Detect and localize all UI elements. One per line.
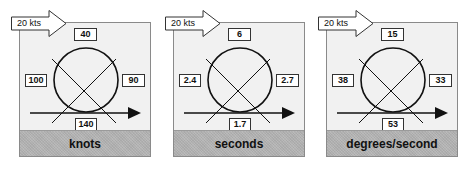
- value-left: 100: [25, 74, 47, 87]
- circle: [208, 48, 272, 112]
- value-right: 90: [122, 74, 145, 87]
- value-right: 33: [429, 74, 452, 87]
- value-top: 40: [74, 28, 97, 41]
- circle: [361, 48, 425, 112]
- unit-label: degrees/second: [327, 130, 457, 156]
- arrowhead-icon: [435, 107, 448, 119]
- wind-speed-label: 20 kts: [17, 18, 41, 29]
- unit-label: seconds: [174, 130, 304, 156]
- arrowhead-icon: [282, 107, 295, 119]
- value-left: 38: [332, 74, 354, 87]
- wind-speed-label: 20 kts: [324, 18, 348, 29]
- wind-arrow: 20 kts: [165, 10, 221, 37]
- value-left: 2.4: [179, 74, 201, 87]
- wind-speed-label: 20 kts: [171, 18, 195, 29]
- panel-degrees-per-second: 15 38 33 53 degrees/second: [326, 22, 458, 157]
- value-top: 6: [228, 28, 251, 41]
- arrowhead-icon: [128, 107, 141, 119]
- wind-arrow: 20 kts: [11, 10, 67, 37]
- value-top: 15: [381, 28, 404, 41]
- circle: [54, 48, 118, 112]
- wind-arrow: 20 kts: [318, 10, 374, 37]
- panel-knots: 40 100 90 140 knots: [19, 22, 151, 157]
- panel-seconds: 6 2.4 2.7 1.7 seconds: [173, 22, 305, 157]
- value-right: 2.7: [276, 74, 299, 87]
- unit-label: knots: [20, 130, 150, 156]
